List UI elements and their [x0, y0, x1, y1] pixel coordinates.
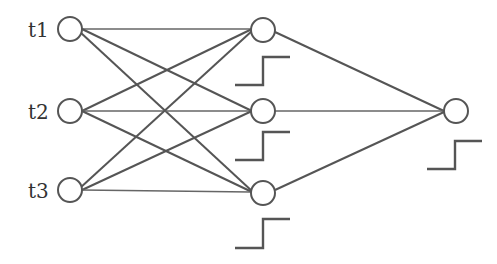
input-label-t3: t3 [28, 179, 49, 203]
edge-h3-o1 [275, 112, 444, 190]
neural-network-diagram: t1 t2 t3 [0, 0, 497, 264]
input-node-t1 [58, 17, 82, 41]
input-node-t2 [58, 99, 82, 123]
step-function-icon [235, 132, 290, 160]
hidden-node-3 [251, 181, 275, 205]
hidden-output-edges [275, 32, 444, 190]
input-node-t3 [58, 178, 82, 202]
hidden-node-1 [251, 18, 275, 42]
input-label-t1: t1 [28, 18, 49, 42]
input-label-t2: t2 [28, 100, 49, 124]
edge-t3-h1 [80, 30, 253, 188]
edge-t3-h3 [82, 190, 251, 192]
step-function-icon [427, 141, 482, 169]
step-function-icon [235, 219, 290, 248]
step-function-icon [235, 57, 290, 85]
edge-h1-o1 [275, 32, 444, 111]
input-hidden-edges [80, 29, 253, 192]
output-node [444, 99, 468, 123]
hidden-node-2 [251, 99, 275, 123]
edge-t1-h3 [80, 32, 253, 192]
